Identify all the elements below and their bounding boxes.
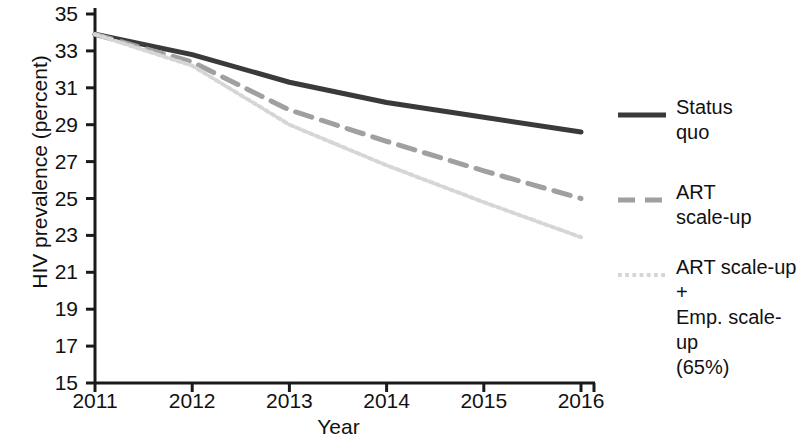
chart-figure: HIV prevalence (percent) Year 1517192123… xyxy=(0,0,805,444)
series-line-0 xyxy=(95,34,581,132)
legend-swatch-icon xyxy=(618,265,666,271)
axes xyxy=(86,8,595,392)
legend-swatch-icon xyxy=(618,105,666,111)
legend-label: ART scale-up + Emp. scale-up (65%) xyxy=(676,255,803,380)
series-line-2 xyxy=(95,34,581,237)
legend-swatch-icon xyxy=(618,190,666,196)
legend-label: ART scale-up xyxy=(676,180,752,230)
legend-label: Status quo xyxy=(676,95,733,145)
data-series xyxy=(95,34,581,237)
